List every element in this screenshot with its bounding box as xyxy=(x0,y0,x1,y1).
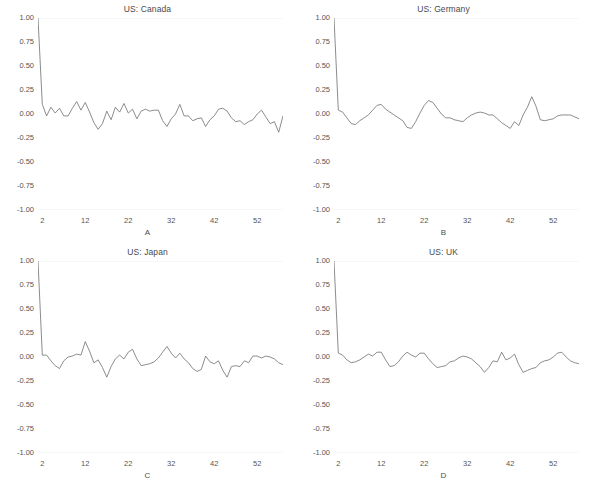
y-tick-label: -0.50 xyxy=(300,401,330,409)
y-tick-label: -0.50 xyxy=(300,158,330,166)
panel-a: US: Canada 1.000.750.500.250.00-0.25-0.5… xyxy=(0,0,295,243)
acf-series-line xyxy=(334,261,579,372)
panel-letter: D xyxy=(296,471,591,480)
y-tick-label: -0.75 xyxy=(4,182,34,190)
acf-line-plot xyxy=(38,261,283,453)
x-tick-label: 2 xyxy=(30,217,54,225)
y-tick-label: 1.00 xyxy=(4,257,34,265)
x-tick-label: 12 xyxy=(369,217,393,225)
x-tick-label: 2 xyxy=(326,217,350,225)
y-tick-label: 0.00 xyxy=(4,110,34,118)
y-tick-label: 0.25 xyxy=(4,329,34,337)
x-tick-label: 42 xyxy=(202,460,226,468)
x-tick-label: 22 xyxy=(412,217,436,225)
acf-series-line xyxy=(38,18,283,132)
y-tick-label: -0.75 xyxy=(300,425,330,433)
panel-letter: C xyxy=(0,471,295,480)
x-tick-label: 42 xyxy=(498,217,522,225)
y-tick-label: 1.00 xyxy=(4,14,34,22)
y-tick-label: -0.75 xyxy=(4,425,34,433)
y-tick-label: -1.00 xyxy=(4,206,34,214)
y-tick-label: 0.50 xyxy=(300,305,330,313)
y-tick-label: 0.00 xyxy=(300,353,330,361)
plot-area: 1.000.750.500.250.00-0.25-0.50-0.75-1.00… xyxy=(334,261,579,453)
y-tick-label: 0.75 xyxy=(300,38,330,46)
y-tick-label: 0.75 xyxy=(4,281,34,289)
y-tick-label: -0.25 xyxy=(300,134,330,142)
x-tick-label: 42 xyxy=(202,217,226,225)
panel-d: US: UK 1.000.750.500.250.00-0.25-0.50-0.… xyxy=(296,243,591,486)
x-tick-label: 52 xyxy=(541,460,565,468)
y-tick-label: -0.50 xyxy=(4,401,34,409)
x-tick-label: 22 xyxy=(116,217,140,225)
y-tick-label: 0.25 xyxy=(4,86,34,94)
y-tick-label: -1.00 xyxy=(300,206,330,214)
y-tick-label: 0.25 xyxy=(300,329,330,337)
y-tick-label: 0.00 xyxy=(300,110,330,118)
x-tick-label: 52 xyxy=(245,217,269,225)
panel-title: US: Japan xyxy=(0,247,295,257)
y-tick-label: 0.75 xyxy=(4,38,34,46)
panel-b: US: Germany 1.000.750.500.250.00-0.25-0.… xyxy=(296,0,591,243)
acf-line-plot xyxy=(334,18,579,210)
y-tick-label: 1.00 xyxy=(300,257,330,265)
y-tick-label: 0.75 xyxy=(300,281,330,289)
x-tick-label: 12 xyxy=(73,460,97,468)
plot-area: 1.000.750.500.250.00-0.25-0.50-0.75-1.00… xyxy=(38,18,283,210)
y-tick-label: -0.75 xyxy=(300,182,330,190)
x-tick-label: 2 xyxy=(326,460,350,468)
x-tick-label: 32 xyxy=(455,460,479,468)
y-tick-label: -0.25 xyxy=(4,377,34,385)
x-tick-label: 52 xyxy=(541,217,565,225)
panel-title: US: Germany xyxy=(296,4,591,14)
plot-area: 1.000.750.500.250.00-0.25-0.50-0.75-1.00… xyxy=(334,18,579,210)
panel-title: US: Canada xyxy=(0,4,295,14)
x-tick-label: 12 xyxy=(73,217,97,225)
y-tick-label: -0.25 xyxy=(4,134,34,142)
x-tick-label: 32 xyxy=(159,460,183,468)
y-tick-label: 0.50 xyxy=(4,305,34,313)
panel-title: US: UK xyxy=(296,247,591,257)
x-tick-label: 12 xyxy=(369,460,393,468)
y-tick-label: -1.00 xyxy=(4,449,34,457)
y-tick-label: -0.50 xyxy=(4,158,34,166)
y-tick-label: 1.00 xyxy=(300,14,330,22)
y-tick-label: 0.50 xyxy=(4,62,34,70)
acf-line-plot xyxy=(38,18,283,210)
panel-letter: A xyxy=(0,228,295,237)
y-tick-label: -1.00 xyxy=(300,449,330,457)
panel-c: US: Japan 1.000.750.500.250.00-0.25-0.50… xyxy=(0,243,295,486)
acf-line-plot xyxy=(334,261,579,453)
acf-series-line xyxy=(334,18,579,128)
panel-letter: B xyxy=(296,228,591,237)
y-tick-label: 0.25 xyxy=(300,86,330,94)
x-tick-label: 22 xyxy=(412,460,436,468)
x-tick-label: 32 xyxy=(455,217,479,225)
acf-series-line xyxy=(38,261,283,377)
x-tick-label: 32 xyxy=(159,217,183,225)
x-tick-label: 22 xyxy=(116,460,140,468)
plot-area: 1.000.750.500.250.00-0.25-0.50-0.75-1.00… xyxy=(38,261,283,453)
x-tick-label: 42 xyxy=(498,460,522,468)
y-tick-label: -0.25 xyxy=(300,377,330,385)
y-tick-label: 0.00 xyxy=(4,353,34,361)
acf-figure: US: Canada 1.000.750.500.250.00-0.25-0.5… xyxy=(0,0,591,486)
x-tick-label: 52 xyxy=(245,460,269,468)
x-tick-label: 2 xyxy=(30,460,54,468)
y-tick-label: 0.50 xyxy=(300,62,330,70)
